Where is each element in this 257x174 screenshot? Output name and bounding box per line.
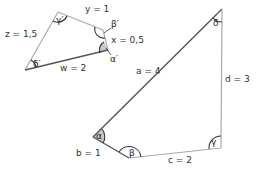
side-y — [58, 12, 103, 30]
label-delta: δ — [213, 18, 219, 28]
label-a: a = 4 — [136, 66, 161, 76]
diagram-canvas: y = 1 x = 0,5 w = 2 z = 1,5 β′ α′ γ′ δ′ … — [0, 0, 257, 174]
label-z: z = 1,5 — [5, 29, 37, 39]
label-gamma: γ — [211, 137, 217, 147]
side-d — [221, 9, 222, 148]
label-x: x = 0,5 — [111, 35, 144, 45]
similar-quadrilaterals-diagram: y = 1 x = 0,5 w = 2 z = 1,5 β′ α′ γ′ δ′ … — [0, 0, 257, 174]
label-delta-prime: δ′ — [33, 59, 41, 69]
label-gamma-prime: γ′ — [56, 15, 63, 25]
label-beta-prime: β′ — [111, 19, 119, 29]
label-y: y = 1 — [85, 4, 109, 14]
label-d: d = 3 — [225, 74, 250, 84]
label-w: w = 2 — [60, 63, 86, 73]
label-beta: β — [129, 148, 135, 158]
label-b: b = 1 — [76, 148, 101, 158]
label-c: c = 2 — [168, 155, 192, 165]
side-z — [25, 12, 58, 70]
label-alpha-prime: α′ — [110, 54, 118, 64]
beta-prime-pointer — [104, 28, 111, 33]
large-quadrilateral — [93, 9, 222, 158]
label-alpha: α — [96, 131, 102, 141]
